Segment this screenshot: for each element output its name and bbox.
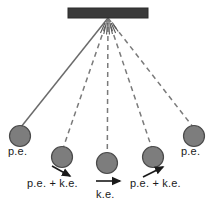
- bob-far-left: [10, 126, 31, 147]
- string-mid-left: [64, 18, 109, 147]
- bob-mid-right: [143, 147, 164, 168]
- arrow-right-upward: [143, 167, 163, 177]
- pivot-fan-dash-4: [109, 23, 110, 35]
- string-far-left: [21, 18, 108, 127]
- string-center: [107, 18, 108, 153]
- bob-far-right: [184, 126, 205, 147]
- pendulum-energy-diagram: p.e. p.e. p.e. + k.e. k.e. p.e. + k.e.: [0, 0, 219, 206]
- pendulum-bobs: [10, 126, 205, 174]
- string-mid-right: [108, 18, 152, 147]
- label-pe-left: p.e.: [8, 146, 27, 157]
- label-pe-ke-left: p.e. + k.e.: [27, 178, 78, 189]
- string-far-right: [108, 18, 193, 127]
- label-pe-right: p.e.: [181, 146, 200, 157]
- label-ke-center: k.e.: [96, 189, 115, 200]
- bob-center: [97, 153, 118, 174]
- figure-canvas: [0, 0, 219, 206]
- label-pe-ke-right: p.e. + k.e.: [130, 178, 181, 189]
- bob-mid-left: [52, 147, 73, 168]
- support-bar: [68, 8, 148, 18]
- pivot-fan-dash-3: [107, 23, 108, 35]
- pendulum-strings: [21, 18, 193, 153]
